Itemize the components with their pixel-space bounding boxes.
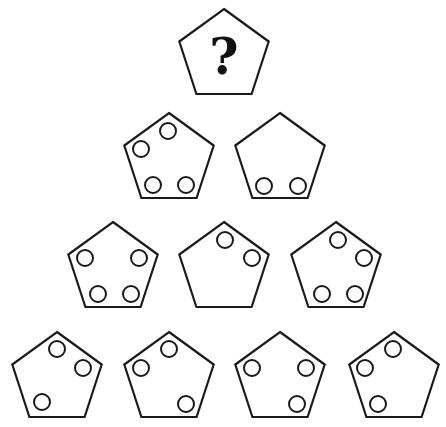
pentagon-cell xyxy=(124,332,213,417)
pentagon-cell xyxy=(124,113,213,198)
question-mark: ? xyxy=(209,27,238,86)
circle-icon xyxy=(370,396,386,412)
circle-icon xyxy=(298,360,314,376)
circle-icon xyxy=(385,341,401,357)
circle-icon xyxy=(314,286,330,302)
circle-icon xyxy=(178,177,194,193)
circle-icon xyxy=(244,250,260,266)
circle-icon xyxy=(90,286,106,302)
circle-icon xyxy=(161,341,177,357)
pentagon-cell xyxy=(68,222,157,307)
pentagon-cell xyxy=(12,332,101,417)
circle-icon xyxy=(256,178,272,194)
pentagon-cell xyxy=(349,332,438,417)
circle-icon xyxy=(289,396,305,412)
circle-icon xyxy=(131,250,147,266)
circle-icon xyxy=(217,232,233,248)
circle-icon xyxy=(34,394,50,410)
circle-icon xyxy=(77,250,93,266)
circle-icon xyxy=(347,286,363,302)
circle-icon xyxy=(357,360,373,376)
pentagon-pyramid-diagram: ? xyxy=(0,0,446,427)
circle-icon xyxy=(49,341,65,357)
pentagon-shape xyxy=(235,113,324,198)
circle-icon xyxy=(244,360,260,376)
circle-icon xyxy=(133,360,149,376)
circle-icon xyxy=(160,123,176,139)
circle-icon xyxy=(133,141,149,157)
circle-icon xyxy=(290,178,306,194)
circle-icon xyxy=(145,177,161,193)
circle-icon xyxy=(123,286,139,302)
pentagon-cell xyxy=(235,332,324,417)
circle-icon xyxy=(75,360,91,376)
question-pentagon: ? xyxy=(179,9,268,94)
pentagon-cell xyxy=(179,222,268,307)
circle-icon xyxy=(356,250,372,266)
pentagon-cell xyxy=(291,222,380,307)
pentagon-cell xyxy=(235,113,324,198)
circle-icon xyxy=(178,396,194,412)
circle-icon xyxy=(330,232,346,248)
